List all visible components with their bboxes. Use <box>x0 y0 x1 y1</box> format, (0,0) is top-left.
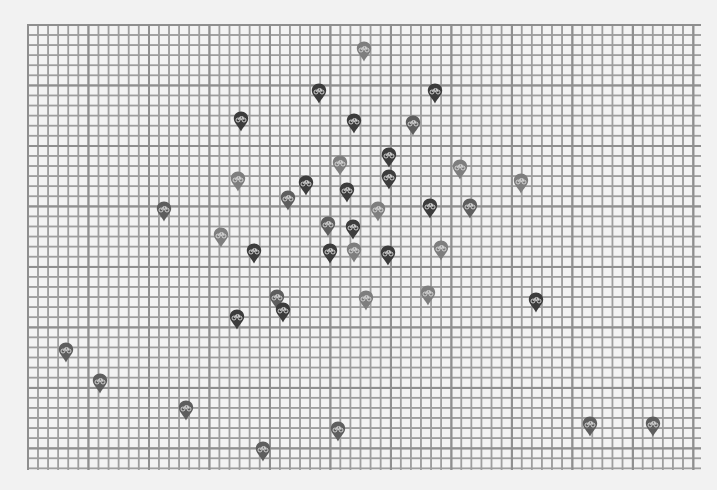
map-marker-37[interactable] <box>330 421 346 442</box>
map-marker-10[interactable] <box>230 171 246 192</box>
bicycle-pin-icon <box>275 302 291 323</box>
bicycle-pin-icon <box>346 242 362 263</box>
bicycle-pin-icon <box>322 243 338 264</box>
bicycle-pin-icon <box>405 115 421 136</box>
bicycle-pin-icon <box>356 41 372 62</box>
map-marker-7[interactable] <box>381 147 397 168</box>
map-marker-17[interactable] <box>370 201 386 222</box>
bicycle-pin-icon <box>370 201 386 222</box>
map-marker-30[interactable] <box>528 292 544 313</box>
map-marker-13[interactable] <box>513 173 529 194</box>
bicycle-pin-icon <box>380 245 396 266</box>
map-marker-12[interactable] <box>381 169 397 190</box>
map-marker-19[interactable] <box>462 198 478 219</box>
map-marker-4[interactable] <box>233 111 249 132</box>
bicycle-pin-icon <box>346 113 362 134</box>
map-marker-23[interactable] <box>246 243 262 264</box>
bicycle-pin-icon <box>320 216 336 237</box>
map-marker-14[interactable] <box>339 182 355 203</box>
bicycle-pin-icon <box>381 147 397 168</box>
map-marker-28[interactable] <box>420 285 436 306</box>
bicycle-pin-icon <box>513 173 529 194</box>
map-marker-3[interactable] <box>427 83 443 104</box>
bicycle-pin-icon <box>381 169 397 190</box>
bicycle-pin-icon <box>233 111 249 132</box>
bicycle-pin-icon <box>422 198 438 219</box>
bicycle-pin-icon <box>645 416 661 437</box>
map-marker-36[interactable] <box>178 400 194 421</box>
bicycle-pin-icon <box>582 416 598 437</box>
map-marker-9[interactable] <box>452 159 468 180</box>
map-marker-20[interactable] <box>320 216 336 237</box>
map-marker-33[interactable] <box>229 309 245 330</box>
map-marker-2[interactable] <box>311 83 327 104</box>
bicycle-pin-icon <box>427 83 443 104</box>
map-grid[interactable] <box>27 24 701 470</box>
map-canvas[interactable] <box>0 0 717 490</box>
bicycle-pin-icon <box>311 83 327 104</box>
bicycle-pin-icon <box>178 400 194 421</box>
bicycle-pin-icon <box>339 182 355 203</box>
map-marker-1[interactable] <box>356 41 372 62</box>
bicycle-pin-icon <box>452 159 468 180</box>
bicycle-pin-icon <box>229 309 245 330</box>
bicycle-pin-icon <box>332 155 348 176</box>
bicycle-pin-icon <box>358 290 374 311</box>
bicycle-pin-icon <box>280 190 296 211</box>
map-marker-24[interactable] <box>322 243 338 264</box>
bicycle-pin-icon <box>528 292 544 313</box>
map-marker-21[interactable] <box>345 219 361 240</box>
map-marker-25[interactable] <box>346 242 362 263</box>
bicycle-pin-icon <box>433 240 449 261</box>
bicycle-pin-icon <box>230 171 246 192</box>
map-marker-8[interactable] <box>332 155 348 176</box>
map-marker-34[interactable] <box>58 342 74 363</box>
map-marker-29[interactable] <box>358 290 374 311</box>
map-marker-32[interactable] <box>275 302 291 323</box>
map-marker-5[interactable] <box>346 113 362 134</box>
bicycle-pin-icon <box>58 342 74 363</box>
map-marker-22[interactable] <box>213 227 229 248</box>
bicycle-pin-icon <box>420 285 436 306</box>
map-marker-40[interactable] <box>255 441 271 462</box>
map-marker-26[interactable] <box>380 245 396 266</box>
bicycle-pin-icon <box>156 201 172 222</box>
map-marker-6[interactable] <box>405 115 421 136</box>
bicycle-pin-icon <box>246 243 262 264</box>
bicycle-pin-icon <box>255 441 271 462</box>
bicycle-pin-icon <box>345 219 361 240</box>
bicycle-pin-icon <box>330 421 346 442</box>
map-marker-16[interactable] <box>156 201 172 222</box>
bicycle-pin-icon <box>213 227 229 248</box>
map-marker-39[interactable] <box>645 416 661 437</box>
map-marker-27[interactable] <box>433 240 449 261</box>
bicycle-pin-icon <box>298 175 314 196</box>
map-marker-15[interactable] <box>280 190 296 211</box>
bicycle-pin-icon <box>92 373 108 394</box>
bicycle-pin-icon <box>462 198 478 219</box>
map-marker-18[interactable] <box>422 198 438 219</box>
map-marker-11[interactable] <box>298 175 314 196</box>
map-marker-38[interactable] <box>582 416 598 437</box>
map-marker-35[interactable] <box>92 373 108 394</box>
